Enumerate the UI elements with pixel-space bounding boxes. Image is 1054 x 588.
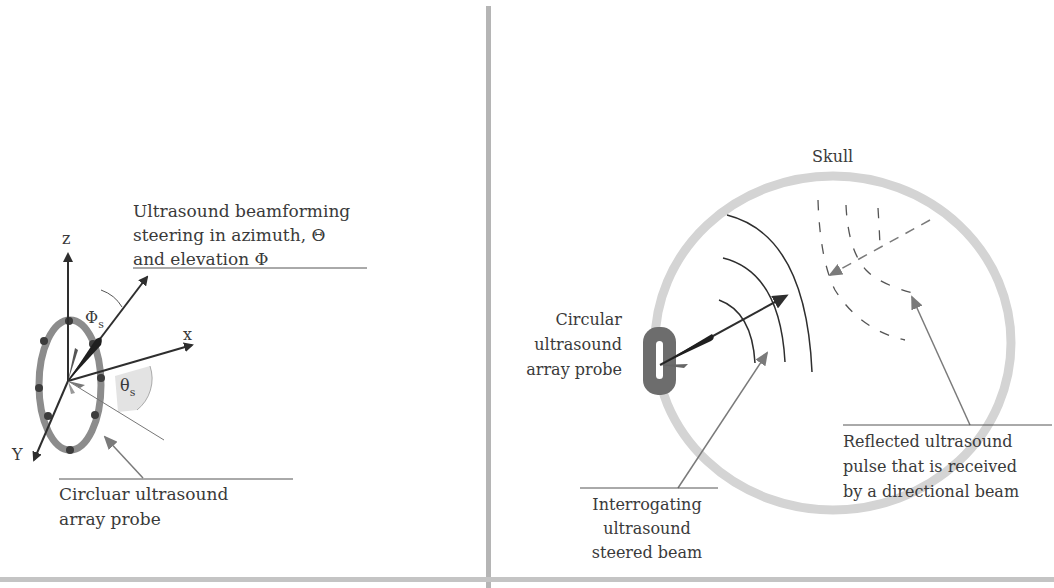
reflected-pointer-arrow bbox=[912, 297, 970, 425]
reflected-label-line-1: Reflected ultrasound bbox=[843, 432, 1013, 451]
skull-label: Skull bbox=[812, 147, 853, 166]
probe-label-line-2: array probe bbox=[59, 509, 161, 529]
probe-label-line-1: Circluar ultrasound bbox=[59, 484, 228, 504]
phi-angle-arc bbox=[101, 290, 122, 307]
reflected-beam-arrow bbox=[830, 220, 930, 275]
reflected-label-line-2: pulse that is received bbox=[843, 457, 1017, 476]
transmitted-wavefronts bbox=[719, 215, 812, 372]
probe-pointer-arrow bbox=[105, 437, 143, 478]
beamforming-title-line-3: and elevation Φ bbox=[133, 249, 268, 269]
bottom-divider bbox=[0, 577, 1054, 582]
x-axis-label: x bbox=[183, 325, 192, 344]
interrogating-pointer-arrow bbox=[678, 353, 767, 488]
right-probe-label-line-1: Circular bbox=[555, 310, 622, 329]
interrogating-label-line-3: steered beam bbox=[592, 543, 702, 562]
beamforming-title-line-1: Ultrasound beamforming bbox=[133, 201, 350, 221]
y-axis-label: Y bbox=[11, 445, 23, 464]
right-probe-label-line-2: ultrasound bbox=[534, 335, 622, 354]
reflected-wavefronts bbox=[818, 200, 920, 340]
z-axis-label: z bbox=[62, 229, 70, 248]
vertical-divider bbox=[486, 6, 491, 588]
interrogating-label-line-1: Interrogating bbox=[592, 495, 701, 514]
left-panel: Ultrasound beamforming steering in azimu… bbox=[11, 201, 367, 529]
beamforming-title-line-2: steering in azimuth, Θ bbox=[133, 225, 325, 245]
ultrasound-diagram: Ultrasound beamforming steering in azimu… bbox=[0, 0, 1054, 588]
interrogating-label-line-2: ultrasound bbox=[603, 519, 691, 538]
right-probe-label-line-3: array probe bbox=[526, 360, 622, 379]
right-panel: Skull Circular ultrasound array probe In bbox=[526, 147, 1052, 562]
probe-slot bbox=[656, 341, 663, 379]
reflected-label-line-3: by a directional beam bbox=[843, 482, 1019, 501]
